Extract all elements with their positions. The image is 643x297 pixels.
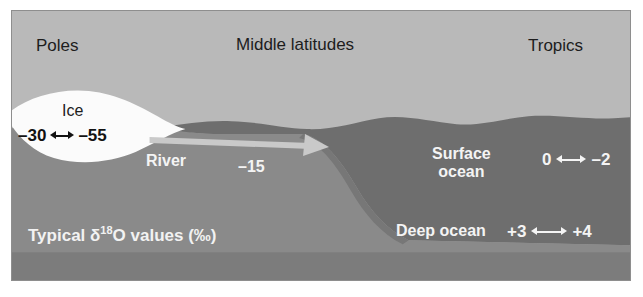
deep-ocean-value-low: +3 bbox=[507, 223, 526, 240]
double-arrow-icon bbox=[50, 131, 74, 141]
figure-caption: Typical δ18O values (‰) bbox=[28, 225, 217, 244]
river-value: –15 bbox=[238, 159, 265, 175]
caption-superscript: 18 bbox=[100, 224, 112, 236]
ice-value-low: –30 bbox=[18, 127, 46, 144]
ice-label: Ice bbox=[62, 103, 83, 119]
caption-prefix: Typical δ bbox=[28, 226, 100, 245]
double-arrow-icon bbox=[531, 227, 567, 237]
surface-ocean-value-high: –2 bbox=[591, 151, 610, 168]
figure-root: Poles Middle latitudes Tropics Ice –30 –… bbox=[0, 0, 643, 297]
seafloor-band bbox=[12, 252, 630, 280]
surface-ocean-label-line1: Surface bbox=[432, 145, 491, 163]
zone-label-poles: Poles bbox=[36, 37, 79, 54]
surface-ocean-value-range: 0 –2 bbox=[542, 151, 610, 168]
deep-ocean-value-high: +4 bbox=[572, 223, 591, 240]
zone-label-tropics: Tropics bbox=[528, 37, 583, 54]
deep-ocean-label: Deep ocean bbox=[396, 223, 486, 239]
surface-ocean-value-low: 0 bbox=[542, 151, 551, 168]
ice-value-range: –30 –55 bbox=[18, 127, 107, 144]
diagram-plate: Poles Middle latitudes Tropics Ice –30 –… bbox=[11, 10, 631, 281]
ice-value-high: –55 bbox=[78, 127, 106, 144]
surface-ocean-label: Surface ocean bbox=[432, 145, 491, 182]
river-label: River bbox=[146, 153, 186, 169]
deep-ocean-value-range: +3 +4 bbox=[507, 223, 592, 240]
surface-ocean-label-line2: ocean bbox=[432, 163, 491, 181]
double-arrow-icon bbox=[556, 155, 586, 165]
caption-suffix: O values (‰) bbox=[113, 226, 217, 245]
zone-label-middle-latitudes: Middle latitudes bbox=[236, 36, 354, 53]
